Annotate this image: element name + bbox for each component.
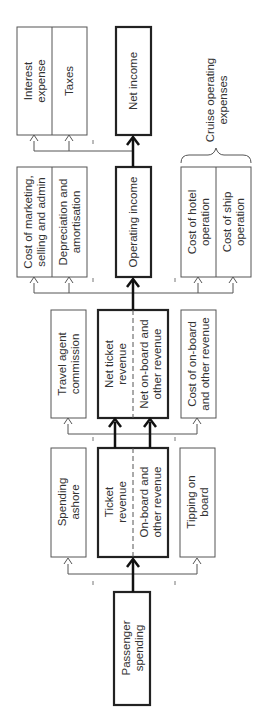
label-onboard-revenue: On-board andother revenue	[138, 467, 163, 538]
label-line: Net on-board and	[138, 319, 150, 409]
arrow-head-spending-ashore	[64, 558, 72, 564]
label-interest-expense: Interestexpense	[22, 59, 47, 102]
label-line: board	[198, 487, 210, 516]
label-cost-onboard: Cost of on-boardand other revenue	[186, 317, 211, 410]
label-line: Spending	[56, 478, 68, 527]
label-line: Net ticket	[103, 339, 115, 388]
label-taxes: Taxes	[63, 66, 75, 96]
label-line: Cost of hotel	[186, 190, 198, 255]
label-cost-ship: Cost of shipoperation	[221, 192, 246, 253]
arrow-head-depreciation	[65, 277, 73, 283]
label-line: Tipping on	[185, 475, 197, 528]
label-line: Passenger	[120, 620, 132, 675]
label-cost-hotel: Cost of hoteloperation	[186, 190, 211, 255]
label-line: Cost of marketing,	[22, 175, 34, 268]
label-cruise-operating-expenses: Cruise operatingexpenses	[204, 58, 229, 142]
label-line: commission	[69, 334, 81, 395]
label-line: revenue	[116, 481, 128, 523]
arrow-head-interest	[30, 135, 38, 141]
label-line: expense	[35, 59, 47, 102]
arrow-head-hotel	[194, 277, 202, 283]
label-line: amortisation	[70, 191, 82, 254]
arrow-head-ship	[229, 277, 237, 283]
label-spending-ashore: Spendingashore	[56, 478, 81, 527]
label-line: Cost of ship	[221, 192, 233, 253]
label-line: Operating income	[127, 177, 139, 268]
cruise-operating-expenses-brace	[181, 148, 251, 163]
label-cost-marketing: Cost of marketing,selling and admin	[22, 175, 47, 268]
arrow-head-marketing	[30, 277, 38, 283]
label-net-ticket-revenue: Net ticketrevenue	[103, 339, 128, 388]
label-line: operation	[199, 198, 211, 246]
label-line: and other revenue	[199, 317, 211, 410]
label-line: Cost of on-board	[186, 321, 198, 407]
label-line: Taxes	[63, 66, 75, 96]
label-depreciation: Depreciation andamortisation	[57, 179, 82, 266]
label-line: Travel agent	[56, 331, 68, 395]
label-travel-agent-commission: Travel agentcommission	[56, 331, 81, 395]
label-net-income: Net income	[127, 52, 139, 110]
label-line: Net income	[127, 52, 139, 110]
arrow-head-cost-onboard	[193, 418, 201, 424]
label-line: other revenue	[151, 467, 163, 538]
label-ticket-revenue: Ticketrevenue	[103, 481, 128, 523]
arrow-head-taxes	[65, 135, 73, 141]
cruise-revenue-flow-diagram: InterestexpenseTaxesNet incomeCruise ope…	[0, 0, 266, 721]
label-line: revenue	[116, 343, 128, 385]
label-line: selling and admin	[35, 177, 47, 267]
arrow-head-travel-agent	[64, 418, 72, 424]
label-line: Ticket	[103, 486, 115, 517]
connector-revenue-deductions	[68, 424, 197, 434]
label-line: Depreciation and	[57, 179, 69, 266]
label-net-onboard-revenue: Net on-board andother revenue	[138, 319, 163, 409]
label-line: Cruise operating	[204, 58, 216, 142]
label-line: On-board and	[138, 467, 150, 538]
label-line: spending	[133, 625, 145, 672]
label-line: expenses	[217, 75, 229, 124]
label-line: other revenue	[151, 329, 163, 400]
label-operating-income: Operating income	[127, 177, 139, 268]
label-line: Interest	[22, 61, 34, 100]
arrow-head-tipping	[193, 558, 201, 564]
label-line: ashore	[69, 484, 81, 519]
label-passenger-spending: Passengerspending	[120, 620, 145, 675]
connector-interest-taxes	[34, 141, 133, 151]
label-line: operation	[234, 198, 246, 246]
